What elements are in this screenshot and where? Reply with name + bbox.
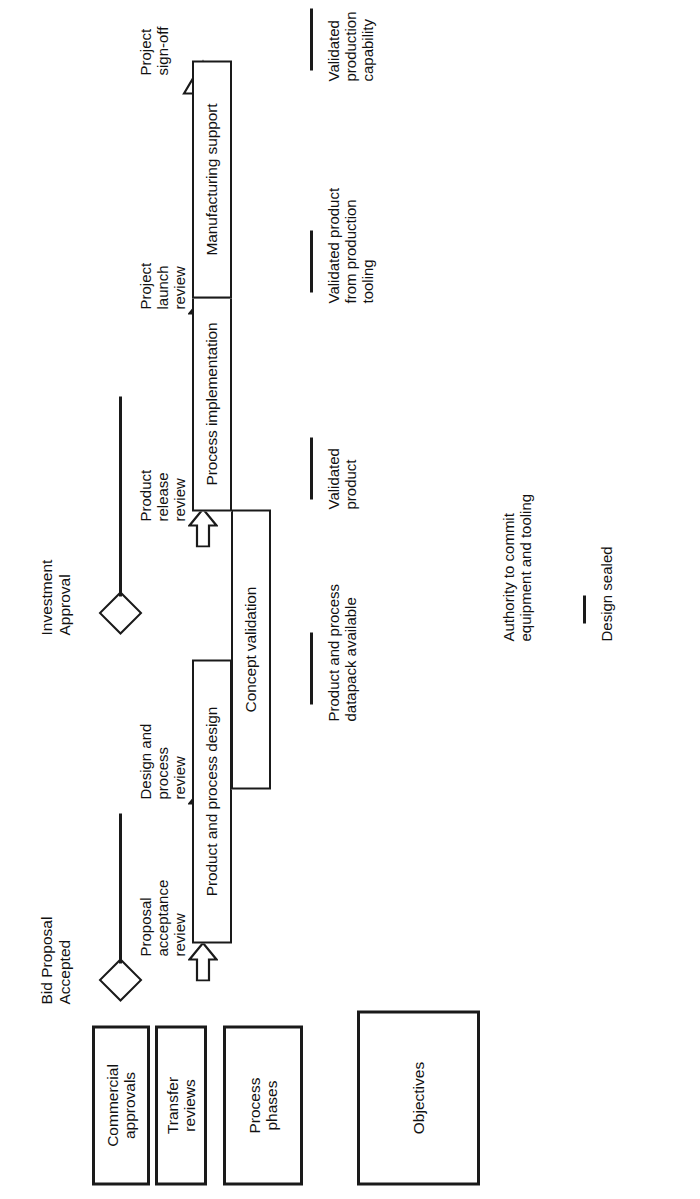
commercial-approval-label-investment-approval: Investment Approval: [38, 559, 73, 635]
objective-tick-design-sealed: [583, 595, 586, 623]
transfer-review-label-product-release-review: Product release review: [137, 469, 188, 521]
objective-label-validated-product-from-production-tooling: Validated product from production toolin…: [325, 187, 376, 303]
phase-bar-manufacturing-support-label: Manufacturing support: [203, 103, 221, 255]
objective-tick-validated-production-capability: [310, 8, 313, 70]
process-timeline-diagram: Commercial approvals Transfer reviews Pr…: [0, 0, 700, 1199]
block-arrow-product-release-review: [188, 507, 218, 547]
row-label-objectives: Objectives: [357, 1010, 480, 1185]
row-label-commercial-approvals-text: Commercial approvals: [104, 1064, 139, 1147]
block-arrow-proposal-acceptance-review: [188, 941, 218, 981]
milestone-diamond-bid-proposal-accepted: [99, 958, 143, 1002]
row-label-objectives-text: Objectives: [410, 1061, 427, 1133]
phase-bar-product-and-process-design: Product and process design: [192, 659, 232, 943]
row-label-process-phases-text: Process phases: [246, 1077, 281, 1133]
milestone-diamond-investment-approval: [99, 591, 143, 635]
investment-approval-baseline: [119, 396, 122, 596]
commercial-approval-label-bid-proposal-accepted: Bid Proposal Accepted: [38, 916, 73, 1004]
phase-bar-process-implementation-label: Process implementation: [203, 322, 221, 485]
row-label-transfer-reviews: Transfer reviews: [155, 1025, 207, 1185]
figure-page: Commercial approvals Transfer reviews Pr…: [0, 0, 700, 1199]
objective-tick-validated-product: [310, 437, 313, 499]
row-label-process-phases: Process phases: [223, 1025, 303, 1185]
objective-label-validated-production-capability: Validated production capability: [325, 11, 376, 81]
row-label-transfer-reviews-text: Transfer reviews: [164, 1076, 199, 1133]
phase-bar-concept-validation: Concept validation: [231, 509, 271, 789]
phase-bar-process-implementation: Process implementation: [192, 296, 232, 511]
phase-bar-product-and-process-design-label: Product and process design: [203, 706, 221, 896]
transfer-review-label-proposal-acceptance-review: Proposal acceptance review: [137, 879, 188, 956]
phase-bar-manufacturing-support: Manufacturing support: [192, 60, 232, 298]
row-label-commercial-approvals: Commercial approvals: [92, 1025, 150, 1185]
transfer-review-label-project-sign-off: Project sign-off: [137, 26, 171, 75]
transfer-review-label-design-and-process-review: Design and process review: [137, 723, 188, 799]
commercial-approvals-baseline: [119, 813, 122, 963]
transfer-review-label-project-launch-review: Project launch review: [137, 262, 188, 309]
objective-tick-validated-product-from-production-tooling: [310, 230, 313, 292]
objective-label-product-and-process-datapack-available: Product and process datapack available: [325, 583, 359, 721]
objective-tick-product-and-process-datapack-available: [310, 632, 313, 704]
objective-label-validated-product: Validated product: [325, 448, 359, 509]
objective-label-authority-to-commit: Authority to commit equipment and toolin…: [500, 493, 534, 641]
phase-bar-concept-validation-label: Concept validation: [242, 586, 260, 712]
objective-label-design-sealed: Design sealed: [598, 546, 615, 641]
